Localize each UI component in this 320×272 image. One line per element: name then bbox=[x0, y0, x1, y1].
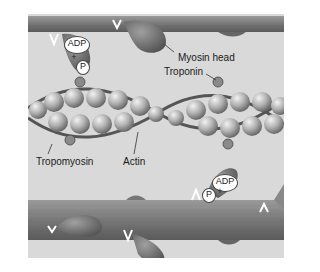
label-troponin: Troponin bbox=[164, 66, 203, 77]
actin-beads bbox=[29, 88, 284, 138]
label-myosin-head: Myosin head bbox=[178, 52, 235, 63]
label-actin: Actin bbox=[123, 156, 145, 167]
thin-filament bbox=[28, 77, 284, 149]
adp-top: ADP bbox=[64, 36, 90, 54]
thick-filament-bottom bbox=[28, 168, 284, 258]
phosphate-bottom: P bbox=[202, 188, 216, 203]
plus-bottom: + bbox=[216, 187, 224, 196]
diagram-panel: ADP + P ADP + P Myosin head Troponin Tro… bbox=[28, 14, 284, 258]
plus-top: + bbox=[70, 53, 78, 62]
phosphate-top: P bbox=[76, 60, 90, 75]
label-tropomyosin: Tropomyosin bbox=[36, 156, 93, 167]
